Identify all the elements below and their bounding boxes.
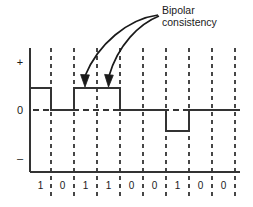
bit-label-2: 1 (83, 180, 89, 191)
annotation-line-2: consistency (162, 16, 218, 28)
y-axis-label-plus: + (17, 56, 23, 68)
bit-label-3: 1 (106, 180, 112, 191)
bit-label-1: 0 (60, 180, 66, 191)
bit-label-4: 0 (129, 180, 135, 191)
y-axis-label-minus: – (17, 152, 24, 164)
bit-label-8: 0 (221, 180, 227, 191)
bit-label-7: 0 (198, 180, 204, 191)
figure-background (0, 0, 253, 207)
y-axis-label-zero: 0 (17, 104, 23, 116)
bit-label-0: 1 (38, 180, 44, 191)
annotation-line-1: Bipolar (162, 4, 195, 16)
bipolar-encoding-figure: + 0 – 1 0 1 1 0 0 1 0 0 Bipolar consiste… (0, 0, 253, 207)
waveform-diagram-svg: + 0 – 1 0 1 1 0 0 1 0 0 Bipolar consiste… (0, 0, 253, 207)
bit-label-5: 0 (152, 180, 158, 191)
bit-label-6: 1 (175, 180, 181, 191)
